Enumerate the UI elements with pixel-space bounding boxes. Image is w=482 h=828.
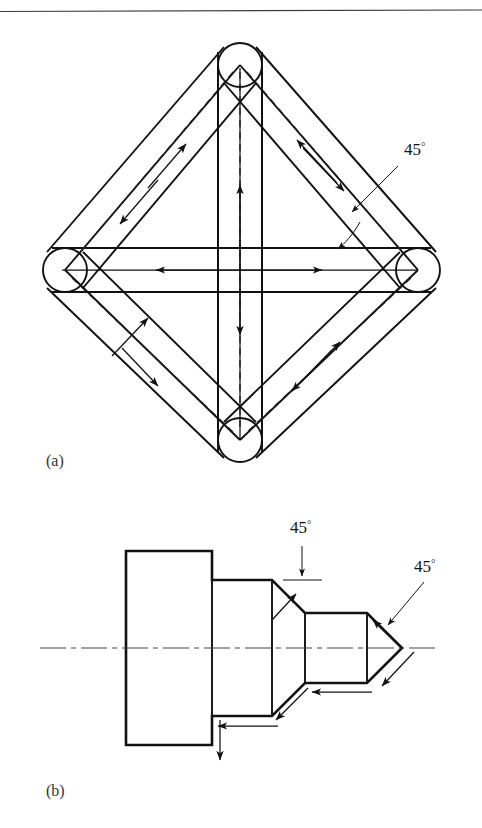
- angle-leader-a: [352, 166, 398, 212]
- inner-rhombus: [65, 65, 418, 440]
- angle-arc-a: [338, 222, 360, 249]
- figure-root: 45° (a) 45° 45°: [0, 0, 482, 828]
- arrow-up-right-ll: [112, 318, 148, 356]
- angle-leader-b-right: [388, 582, 424, 625]
- arrow-down-right-ll: [122, 348, 158, 386]
- page-top-rule: [0, 10, 482, 12]
- arrow-cone-lower: [382, 652, 414, 686]
- arrow-down-left-lr: [292, 350, 332, 391]
- panel-b: 45° 45° (b): [40, 518, 438, 800]
- caption-b: (b): [46, 782, 65, 800]
- arrow-taper-lower: [276, 688, 308, 720]
- arrow-cone-upper: [373, 620, 402, 648]
- rails-through-nodes: [52, 52, 431, 453]
- centerlines-diagonal: [72, 72, 411, 432]
- technical-drawing-svg: 45° (a) 45° 45°: [0, 0, 482, 828]
- arrow-down-left-ul: [120, 180, 158, 224]
- arrows-lower-left: [112, 318, 158, 386]
- angle-label-a: 45°: [404, 140, 425, 159]
- caption-a: (a): [46, 452, 64, 470]
- arrows-upper-right: [297, 140, 344, 191]
- angle-label-b-right: 45°: [414, 557, 435, 576]
- arrow-taper-upper: [272, 594, 296, 620]
- panel-a: 45° (a): [43, 43, 440, 470]
- arrow-down-right-ur: [303, 148, 344, 191]
- angle-label-b-top: 45°: [290, 518, 311, 537]
